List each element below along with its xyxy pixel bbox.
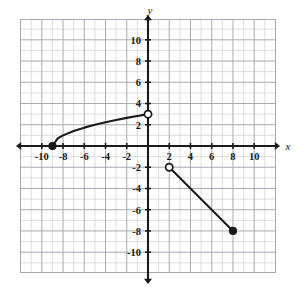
x-tick-label: 10 [249,151,260,162]
x-tick-label: -4 [101,151,110,162]
y-tick-label: 6 [136,77,141,88]
x-tick-label: 2 [167,151,172,162]
x-tick-label: 8 [230,151,235,162]
y-tick-label: 2 [136,120,141,131]
x-tick-label: 6 [209,151,214,162]
open-endpoint-marker [166,164,173,171]
y-tick-label: 8 [136,56,141,67]
x-tick-label: -8 [59,151,68,162]
axis-lines [16,15,280,284]
x-tick-label: -2 [122,151,131,162]
y-tick-label: 4 [136,98,142,109]
open-endpoint-marker [144,111,151,118]
closed-endpoint-marker [49,143,56,150]
y-tick-label: -6 [132,205,141,216]
x-axis-label: x [285,140,291,152]
y-tick-label: -8 [132,226,141,237]
plotted-series [52,114,233,231]
y-axis-label: y [147,4,153,16]
coordinate-plane-svg: -10-8-6-4-2246810108642-2-4-6-8-10 x y [0,0,307,296]
y-tick-label: -4 [132,183,141,194]
x-tick-label: 4 [188,151,194,162]
y-tick-label: -2 [132,162,141,173]
y-tick-label: 10 [131,35,142,46]
y-tick-label: -10 [127,247,141,258]
graph-figure: -10-8-6-4-2246810108642-2-4-6-8-10 x y [0,0,307,296]
series-path-0 [52,114,148,146]
x-tick-label: -10 [35,151,49,162]
x-tick-label: -6 [80,151,89,162]
closed-endpoint-marker [229,227,236,234]
